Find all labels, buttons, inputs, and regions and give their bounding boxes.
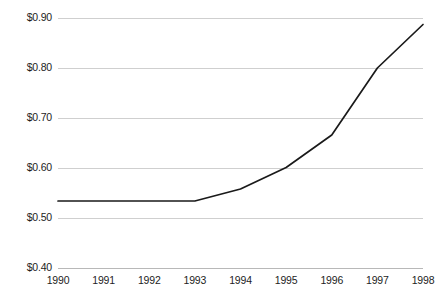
x-tick-label: 1997 [354, 274, 400, 286]
x-axis-line [58, 268, 423, 269]
x-tick-label: 1998 [400, 274, 437, 286]
x-tick-label: 1993 [172, 274, 218, 286]
x-tick-label: 1994 [218, 274, 264, 286]
line-chart: $0.40$0.50$0.60$0.70$0.80$0.90 199019911… [0, 0, 437, 304]
y-axis: $0.40$0.50$0.60$0.70$0.80$0.90 [6, 0, 52, 304]
plot-area [58, 18, 423, 268]
x-tick-label: 1992 [126, 274, 172, 286]
x-tick-label: 1995 [263, 274, 309, 286]
y-tick-label: $0.50 [8, 212, 52, 223]
x-axis: 199019911992199319941995199619971998 [0, 274, 437, 290]
y-tick-label: $0.90 [8, 12, 52, 23]
data-series-line [58, 18, 423, 268]
y-tick-label: $0.70 [8, 112, 52, 123]
x-tick-label: 1990 [35, 274, 81, 286]
x-tick-label: 1996 [309, 274, 355, 286]
y-tick-label: $0.40 [8, 262, 52, 273]
x-tick-label: 1991 [81, 274, 127, 286]
y-tick-label: $0.60 [8, 162, 52, 173]
y-tick-label: $0.80 [8, 62, 52, 73]
